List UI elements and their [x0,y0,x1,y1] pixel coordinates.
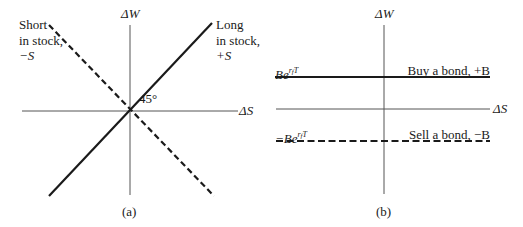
short-label-line2: in stock, [19,33,63,49]
panel-b-x-axis-label: ΔS [493,101,507,116]
short-label-line1: Short [19,17,63,33]
panel-b-y-axis-label: ΔW [375,6,393,21]
panel-a-y-axis-label: ΔW [121,6,139,21]
long-label-line3: +S [216,48,260,64]
buy-bond-label: Buy a bond, +B [408,63,490,78]
panel-b-graphics [275,25,490,194]
buy-bond-value: BerfT [275,63,298,82]
buy-value-base: Be [275,67,289,82]
payoff-diagrams [0,0,523,227]
angle-label: 45° [139,91,157,106]
buy-value-exp-tail: T [294,66,298,75]
long-stock-label: Long in stock, +S [216,17,260,64]
sell-value-base: −Be [275,131,297,146]
panel-b-caption: (b) [376,204,391,219]
long-label-line1: Long [216,17,260,33]
sell-bond-label: Sell a bond, −B [409,127,490,142]
sell-value-exp-tail: T [303,130,307,139]
panel-a-x-axis-label: ΔS [239,103,253,118]
short-stock-label: Short in stock, −S [19,17,63,64]
short-label-line3: −S [19,48,63,64]
panel-a-caption: (a) [122,204,136,219]
long-label-line2: in stock, [216,33,260,49]
sell-bond-value: −BerfT [275,127,307,146]
